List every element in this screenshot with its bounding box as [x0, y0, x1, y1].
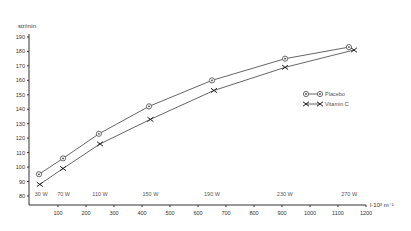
data-point — [147, 117, 153, 121]
legend-marker — [303, 91, 308, 96]
x-tick-label: 100 — [53, 210, 62, 216]
y-tick-label: 90 — [19, 179, 25, 185]
power-label: 110 W — [92, 191, 108, 197]
data-point — [346, 45, 351, 50]
data-point — [37, 182, 43, 186]
x-axis-title: l·10³ m⁻¹ — [370, 202, 394, 208]
series-group — [36, 45, 357, 187]
data-point — [209, 78, 214, 83]
series-placebo — [36, 45, 351, 177]
y-ticks: 8090100110120130140150160170180190 — [16, 34, 29, 199]
data-point — [282, 65, 288, 69]
x-tick-label: 1100 — [332, 210, 344, 216]
data-point — [282, 56, 287, 61]
power-label: 150 W — [142, 191, 159, 197]
power-label: 190 W — [204, 191, 221, 197]
y-tick-label: 110 — [16, 150, 25, 156]
y-tick-label: 140 — [16, 106, 25, 112]
x-tick-label: 1200 — [360, 210, 372, 216]
x-tick-label: 300 — [109, 210, 118, 216]
series-line — [39, 47, 349, 174]
data-point — [146, 104, 151, 109]
x-tick-label: 700 — [221, 210, 230, 216]
y-tick-label: 180 — [16, 48, 25, 54]
y-tick-label: 100 — [16, 164, 25, 170]
x-tick-label: 1000 — [304, 210, 316, 216]
series-line — [40, 50, 354, 184]
power-label: 230 W — [277, 191, 294, 197]
y-tick-label: 170 — [16, 63, 25, 69]
power-label: 270 W — [341, 191, 358, 197]
y-tick-label: 130 — [16, 121, 25, 127]
x-tick-label: 800 — [249, 210, 258, 216]
x-tick-label: 900 — [277, 210, 286, 216]
legend-label: Placebo — [325, 91, 345, 97]
x-ticks: 100200300400500600700800900100011001200 — [53, 205, 372, 216]
legend-marker — [317, 91, 322, 96]
y-tick-label: 160 — [16, 77, 25, 83]
y-tick-label: 80 — [19, 193, 25, 199]
legend: PlaceboVitamin C — [303, 91, 349, 107]
data-point — [96, 131, 101, 136]
data-point — [97, 142, 103, 146]
y-tick-label: 120 — [16, 135, 25, 141]
y-axis-title: str/min — [18, 23, 36, 29]
x-tick-label: 400 — [137, 210, 146, 216]
series-vitamin-c — [37, 48, 357, 187]
data-point — [36, 172, 41, 177]
axes: str/min l·10³ m⁻¹ — [18, 23, 394, 208]
legend-item: Placebo — [303, 91, 344, 97]
legend-label: Vitamin C — [325, 101, 349, 107]
x-tick-label: 500 — [165, 210, 174, 216]
power-label: 70 W — [57, 191, 71, 197]
legend-item: Vitamin C — [303, 101, 349, 107]
data-point — [211, 88, 217, 92]
data-point — [351, 48, 357, 52]
data-point — [60, 156, 65, 161]
x-tick-label: 600 — [193, 210, 202, 216]
power-label: 30 W — [35, 191, 49, 197]
x-tick-label: 200 — [81, 210, 90, 216]
chart: str/min l·10³ m⁻¹ 8090100110120130140150… — [0, 0, 411, 231]
y-tick-label: 150 — [16, 92, 25, 98]
data-point — [60, 166, 66, 170]
power-labels: 30 W70 W110 W150 W190 W230 W270 W — [35, 191, 358, 197]
y-tick-label: 190 — [16, 34, 25, 40]
